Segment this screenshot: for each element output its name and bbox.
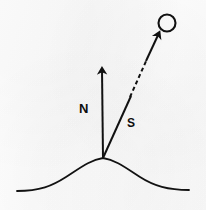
source-vector-label: S [127,117,135,129]
vector-diagram [0,0,206,210]
normal-vector-label: N [79,102,88,115]
source-vector-dashed-segment [130,59,147,97]
normal-vector-arrow [102,69,103,158]
surface-profile-curve [17,158,189,191]
figure-container: N S [0,0,206,210]
light-source-circle [159,15,176,32]
source-vector-upper-segment [146,33,159,61]
